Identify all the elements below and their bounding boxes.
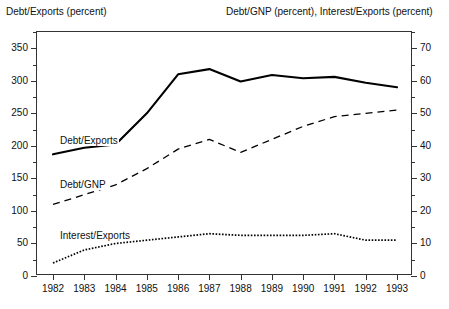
x-tick-label-1983: 1983 xyxy=(73,284,95,294)
right-tick-label-10: 10 xyxy=(420,238,431,248)
x-tick-label-1989: 1989 xyxy=(261,284,283,294)
left-axis-header: Debt/Exports (percent) xyxy=(6,6,107,18)
right-tick-label-30: 30 xyxy=(420,173,431,183)
series-annotation-debt-gnp: Debt/GNP xyxy=(59,180,107,190)
x-tick-label-1987: 1987 xyxy=(198,284,220,294)
x-tick-label-1985: 1985 xyxy=(136,284,158,294)
x-tick-label-1988: 1988 xyxy=(230,284,252,294)
left-tick-label-100: 100 xyxy=(11,206,28,216)
right-tick-0 xyxy=(411,276,417,277)
left-tick-label-250: 250 xyxy=(11,108,28,118)
right-tick-label-20: 20 xyxy=(420,206,431,216)
left-tick-label-300: 300 xyxy=(11,76,28,86)
series-line-debt-gnp xyxy=(53,110,397,204)
chart-container: Debt/Exports (percent) Debt/GNP (percent… xyxy=(0,0,449,309)
x-tick-label-1982: 1982 xyxy=(42,284,64,294)
left-tick-label-350: 350 xyxy=(11,43,28,53)
left-tick-label-0: 0 xyxy=(22,271,28,281)
x-tick-label-1991: 1991 xyxy=(323,284,345,294)
right-tick-label-40: 40 xyxy=(420,141,431,151)
x-tick-label-1993: 1993 xyxy=(386,284,408,294)
plot-area: 050100150200250300350 010203040506070 19… xyxy=(36,31,412,275)
left-tick-label-200: 200 xyxy=(11,141,28,151)
right-tick-label-50: 50 xyxy=(420,108,431,118)
left-tick-label-50: 50 xyxy=(17,238,28,248)
right-tick-label-0: 0 xyxy=(420,271,426,281)
right-axis-header: Debt/GNP (percent), Interest/Exports (pe… xyxy=(226,6,433,18)
right-tick-label-70: 70 xyxy=(420,43,431,53)
series-annotation-debt-exports: Debt/Exports xyxy=(59,136,119,146)
x-tick-label-1992: 1992 xyxy=(355,284,377,294)
series-annotation-interest-exports: Interest/Exports xyxy=(59,231,131,241)
left-tick-0 xyxy=(31,276,37,277)
right-tick-label-60: 60 xyxy=(420,76,431,86)
x-tick-label-1984: 1984 xyxy=(104,284,126,294)
x-tick-label-1986: 1986 xyxy=(167,284,189,294)
left-tick-label-150: 150 xyxy=(11,173,28,183)
x-tick-label-1990: 1990 xyxy=(292,284,314,294)
